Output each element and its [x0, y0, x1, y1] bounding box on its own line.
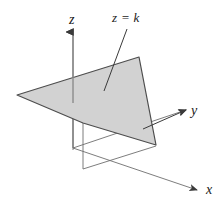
- z-axis-label: z: [69, 13, 74, 27]
- figure-container: z y x z = k: [0, 0, 224, 211]
- plane-equation-label: z = k: [112, 11, 140, 24]
- x-axis-line: [73, 148, 197, 190]
- y-axis-label: y: [191, 104, 197, 118]
- projection-base-line: [83, 146, 156, 169]
- x-axis-label: x: [206, 183, 212, 197]
- plane-z-equals-k: [17, 57, 156, 145]
